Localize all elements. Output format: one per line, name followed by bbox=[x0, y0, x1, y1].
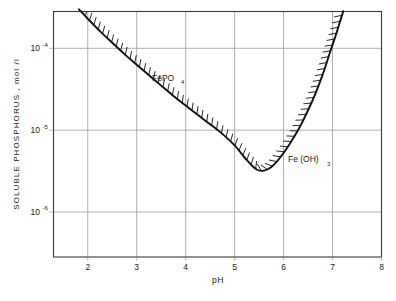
hatch-tick bbox=[280, 146, 288, 147]
x-tick-label: 6 bbox=[281, 262, 286, 272]
solubility-chart: 2345678 10-410-510-6 pH SOLUBLE PHOSPHOR… bbox=[0, 0, 396, 301]
hatch-tick bbox=[231, 134, 233, 142]
hatch-tick bbox=[247, 153, 250, 161]
y-tick-label-exponent: -6 bbox=[43, 205, 49, 211]
feoh3-label-text: Fe (OH) bbox=[288, 154, 319, 164]
hatch-tick bbox=[265, 163, 273, 166]
hatch-tick bbox=[235, 138, 238, 146]
fepo4-label-subscript: 4 bbox=[181, 79, 185, 85]
x-tick-label: 2 bbox=[85, 262, 90, 272]
chart-canvas: 2345678 10-410-510-6 pH SOLUBLE PHOSPHOR… bbox=[0, 0, 396, 301]
hatch-tick bbox=[243, 148, 246, 155]
feoh3-label-subscript: 3 bbox=[327, 161, 331, 167]
hatch-tick bbox=[207, 114, 208, 122]
hatch-tick bbox=[269, 160, 277, 162]
hatch-tick bbox=[202, 110, 203, 118]
hatch-tick bbox=[177, 91, 178, 99]
y-tick-label-exponent: -5 bbox=[43, 124, 49, 130]
x-tick-label: 7 bbox=[330, 262, 335, 272]
hatch-tick bbox=[273, 156, 281, 157]
hatch-tick bbox=[107, 30, 109, 38]
hatch-tick bbox=[172, 87, 173, 95]
hatch-tick bbox=[212, 118, 213, 126]
x-tick-label: 4 bbox=[183, 262, 188, 272]
x-tick-label: 5 bbox=[232, 262, 237, 272]
hatch-tick bbox=[130, 51, 132, 59]
x-tick-label: 8 bbox=[379, 262, 384, 272]
hatch-tick bbox=[256, 161, 257, 169]
hatch-tick bbox=[221, 125, 223, 133]
hatch-tick bbox=[192, 103, 193, 111]
hatch-tick bbox=[121, 43, 123, 51]
hatch-tick bbox=[197, 106, 198, 114]
hatch-tick bbox=[103, 26, 105, 34]
y-tick-label-exponent: -4 bbox=[43, 42, 49, 48]
hatch-tick bbox=[116, 39, 118, 47]
x-tick-labels: 2345678 bbox=[85, 257, 384, 272]
hatch-tick bbox=[149, 67, 151, 75]
hatch-tick bbox=[168, 83, 170, 91]
hatch-tick bbox=[187, 99, 188, 107]
hatch-tick bbox=[94, 17, 96, 25]
hatch-tick bbox=[251, 157, 253, 165]
hatch-tick bbox=[135, 55, 137, 63]
y-tick-label-mantissa: 10 bbox=[31, 43, 41, 53]
feoh3-annotation: Fe (OH) 3 bbox=[288, 154, 331, 167]
hatch-tick bbox=[261, 165, 268, 170]
y-tick-label-mantissa: 10 bbox=[31, 125, 41, 135]
hatch-tick bbox=[144, 63, 146, 71]
hatch-tick bbox=[239, 143, 242, 150]
y-tick-label-mantissa: 10 bbox=[31, 207, 41, 217]
hatch-tick bbox=[112, 34, 114, 42]
hatch-tick bbox=[217, 121, 218, 129]
solubility-curve bbox=[79, 9, 343, 171]
hatch-tick bbox=[139, 59, 141, 67]
hatch-tick bbox=[182, 95, 183, 103]
hatch-tick bbox=[98, 22, 100, 30]
x-axis-title: pH bbox=[212, 275, 224, 285]
hatching-marks bbox=[81, 11, 342, 170]
fepo4-label-text: FePO bbox=[152, 73, 175, 83]
y-axis-title: SOLUBLE PHOSPHORUS , mol /l bbox=[12, 58, 21, 210]
hatch-tick bbox=[90, 13, 92, 21]
x-tick-label: 3 bbox=[134, 262, 139, 272]
y-tick-labels: 10-410-510-6 bbox=[31, 42, 54, 217]
